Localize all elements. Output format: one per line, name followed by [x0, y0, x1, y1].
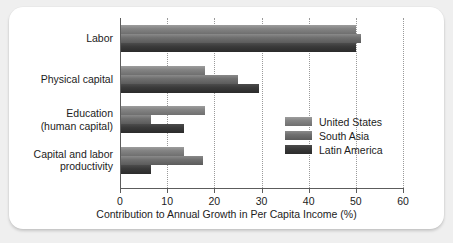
bar	[120, 34, 361, 43]
category-label-line: productivity	[0, 160, 113, 173]
x-axis-title: Contribution to Annual Growth in Per Cap…	[9, 208, 444, 220]
category-label-line: Education	[0, 107, 113, 120]
legend-label: United States	[319, 116, 382, 128]
category-label-line: Physical capital	[0, 73, 113, 86]
y-axis-line	[120, 18, 121, 189]
x-tick-label: 50	[336, 195, 376, 207]
x-tick	[167, 189, 168, 193]
bar	[120, 66, 205, 75]
x-tick	[214, 189, 215, 193]
x-tick-label: 20	[194, 195, 234, 207]
legend-item: Latin America	[285, 143, 383, 156]
bar	[120, 156, 203, 165]
bar	[120, 124, 184, 133]
bar	[120, 75, 238, 84]
legend-item: United States	[285, 115, 383, 128]
x-tick-label: 30	[242, 195, 282, 207]
legend-label: South Asia	[319, 130, 369, 142]
x-tick-label: 60	[383, 195, 423, 207]
bar	[120, 115, 151, 124]
legend-swatch-icon	[285, 117, 312, 126]
legend-swatch-icon	[285, 145, 312, 154]
figure-card: 0102030405060 LaborPhysical capitalEduca…	[9, 7, 444, 229]
category-label: Labor	[0, 32, 113, 45]
bar	[120, 25, 356, 34]
category-label: Capital and laborproductivity	[0, 148, 113, 173]
gridline	[403, 18, 405, 188]
legend-item: South Asia	[285, 129, 383, 142]
category-label: Physical capital	[0, 73, 113, 86]
x-tick-label: 10	[147, 195, 187, 207]
legend-swatch-icon	[285, 131, 312, 140]
bar	[120, 165, 151, 174]
bar	[120, 43, 356, 52]
plot-region	[120, 18, 403, 188]
x-tick-label: 0	[100, 195, 140, 207]
x-tick	[356, 189, 357, 193]
x-tick	[403, 189, 404, 193]
bar	[120, 106, 205, 115]
bar-chart: 0102030405060 LaborPhysical capitalEduca…	[9, 7, 444, 229]
legend-label: Latin America	[319, 144, 383, 156]
x-tick	[262, 189, 263, 193]
category-label-line: Labor	[0, 32, 113, 45]
bar	[120, 147, 184, 156]
category-label-line: (human capital)	[0, 120, 113, 133]
chart-legend: United StatesSouth AsiaLatin America	[285, 115, 383, 157]
category-label: Education(human capital)	[0, 107, 113, 132]
gridline	[356, 18, 358, 188]
bar	[120, 84, 259, 93]
x-tick	[309, 189, 310, 193]
x-tick-label: 40	[289, 195, 329, 207]
category-label-line: Capital and labor	[0, 148, 113, 161]
x-tick	[120, 189, 121, 193]
